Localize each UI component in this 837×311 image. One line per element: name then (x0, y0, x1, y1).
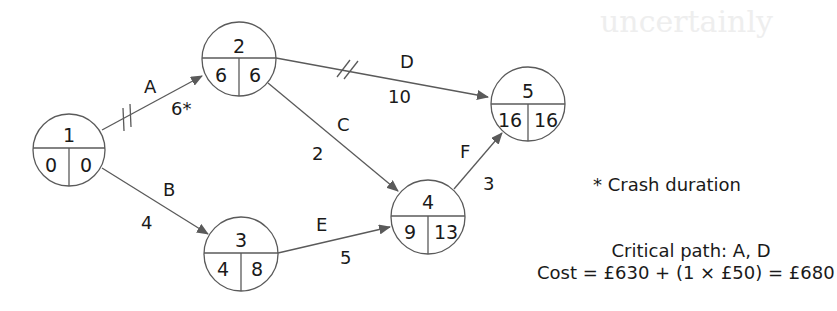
edge-c: C 2 (268, 83, 398, 191)
critical-mark-icon (344, 61, 358, 79)
edge-e: E 5 (278, 214, 390, 268)
node-3-latest: 8 (251, 258, 263, 280)
edge-b-duration: 4 (141, 212, 152, 233)
critical-path-note: Critical path: A, D (591, 240, 791, 261)
node-4-earliest: 9 (404, 221, 416, 243)
node-4-latest: 13 (434, 221, 458, 243)
edge-d-activity: D (400, 51, 414, 72)
node-3-earliest: 4 (217, 258, 229, 280)
crash-duration-note: * Crash duration (593, 174, 741, 195)
node-1-earliest: 0 (45, 154, 57, 176)
node-2-id: 2 (233, 35, 245, 57)
edge-a-duration: 6* (171, 98, 191, 119)
node-1: 1 0 0 (33, 114, 105, 186)
node-2-earliest: 6 (215, 64, 227, 86)
critical-mark-icon (123, 108, 124, 131)
node-2: 2 6 6 (202, 22, 276, 96)
node-3: 3 4 8 (204, 217, 278, 291)
cost-note: Cost = £630 + (1 × £50) = £680 (537, 262, 835, 283)
node-2-latest: 6 (249, 64, 261, 86)
node-5-earliest: 16 (498, 109, 522, 131)
node-1-latest: 0 (80, 154, 92, 176)
node-5: 5 16 16 (491, 67, 565, 141)
edge-e-duration: 5 (340, 247, 351, 268)
edge-b: B 4 (102, 168, 208, 234)
critical-mark-icon (130, 104, 131, 127)
node-4-id: 4 (422, 191, 434, 213)
node-5-latest: 16 (534, 109, 558, 131)
edge-f: F 3 (454, 133, 502, 194)
edge-f-activity: F (460, 141, 470, 162)
node-4: 4 9 13 (391, 180, 465, 254)
edge-d-duration: 10 (388, 86, 411, 107)
edge-e-activity: E (316, 214, 327, 235)
node-1-id: 1 (63, 124, 75, 146)
edge-d: D 10 (276, 51, 488, 107)
edge-a: A 6* (102, 76, 202, 131)
edge-c-duration: 2 (312, 143, 323, 164)
node-5-id: 5 (522, 80, 534, 102)
edge-a-activity: A (144, 76, 157, 97)
edge-c-activity: C (337, 114, 350, 135)
edge-f-duration: 3 (483, 173, 494, 194)
edge-b-activity: B (163, 179, 175, 200)
node-3-id: 3 (235, 229, 247, 251)
